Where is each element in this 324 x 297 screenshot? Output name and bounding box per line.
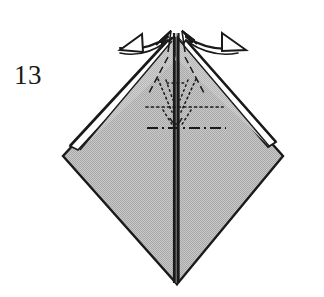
fold-arrow-right-head [222, 33, 246, 51]
fold-arrow-left-head [120, 34, 143, 52]
center-vertical-crease [174, 33, 179, 283]
origami-figure-canvas: 13 [0, 0, 324, 297]
origami-diagram-svg [0, 0, 324, 297]
